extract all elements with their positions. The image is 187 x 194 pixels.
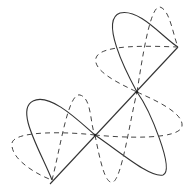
dashed-loop-vertical-lower-left (52, 95, 95, 180)
solid-loop-upper (112, 12, 178, 92)
dashed-loop-vertical-lower (95, 92, 137, 182)
node-marker (94, 134, 97, 137)
node-marker (136, 91, 139, 94)
dashed-loop-horizontal-right (95, 92, 182, 137)
dashed-loop-horizontal-upper (96, 46, 178, 92)
solid-loop-lower-left (27, 99, 95, 180)
propagation-axis (50, 47, 178, 184)
wave-diagram (0, 0, 187, 194)
dashed-loop-horizontal-left (12, 133, 95, 180)
solid-loop-lower-right (95, 92, 166, 175)
